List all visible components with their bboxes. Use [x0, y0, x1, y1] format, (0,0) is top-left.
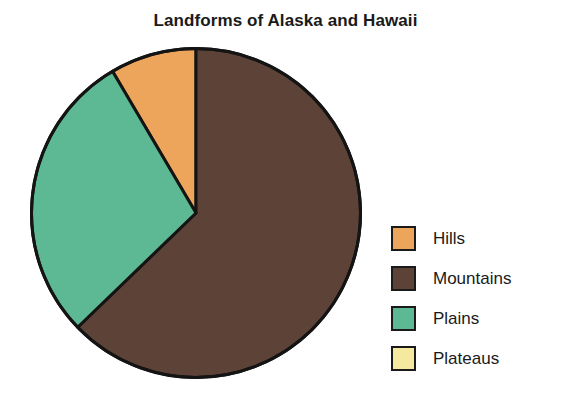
- legend-swatch-icon: [391, 266, 416, 291]
- legend-swatch-icon: [391, 346, 416, 371]
- legend-swatch-icon: [391, 306, 416, 331]
- pie-slice-group: [32, 49, 361, 378]
- pie-svg: [28, 46, 364, 382]
- legend-item-hills[interactable]: Hills: [391, 218, 566, 258]
- pie-plot-area: [28, 46, 364, 382]
- legend-item-label: Mountains: [433, 270, 511, 287]
- legend-item-plains[interactable]: Plains: [391, 298, 566, 338]
- pie-chart-figure: Landforms of Alaska and Hawaii HillsMoun…: [0, 0, 571, 414]
- chart-title: Landforms of Alaska and Hawaii: [0, 11, 571, 31]
- chart-legend: HillsMountainsPlainsPlateaus: [391, 218, 566, 378]
- legend-item-mountains[interactable]: Mountains: [391, 258, 566, 298]
- legend-item-label: Plains: [433, 310, 479, 327]
- legend-item-plateaus[interactable]: Plateaus: [391, 338, 566, 378]
- legend-item-label: Plateaus: [433, 350, 499, 367]
- legend-item-label: Hills: [433, 230, 465, 247]
- legend-swatch-icon: [391, 226, 416, 251]
